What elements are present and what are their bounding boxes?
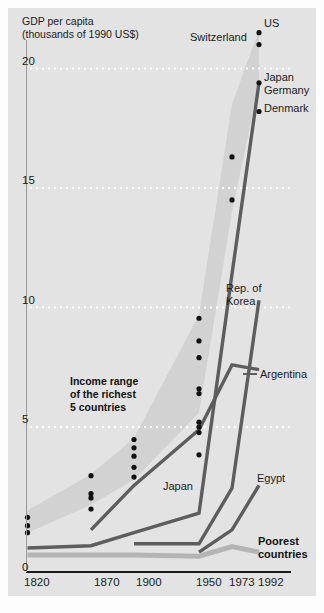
income-range-band <box>28 30 260 532</box>
income-range-line-1: Income range <box>70 375 138 387</box>
scatter-dot <box>25 530 30 535</box>
scatter-dot <box>196 420 201 425</box>
scatter-dot <box>196 316 201 321</box>
chart-svg: GDP per capita(thousands of 1990 US$)051… <box>0 0 324 613</box>
scatter-dot <box>131 437 136 442</box>
germany-label: Germany <box>264 84 310 96</box>
japan-label: Japan <box>163 480 193 492</box>
x-tick-1973: 1973 <box>229 576 255 588</box>
scatter-dot <box>88 495 93 500</box>
income-range-line-3: 5 countries <box>70 401 126 413</box>
scatter-dot <box>196 338 201 343</box>
x-tick-1870: 1870 <box>94 576 120 588</box>
chart-figure: GDP per capita(thousands of 1990 US$)051… <box>0 0 324 613</box>
scatter-dot <box>229 197 234 202</box>
income-range-line-2: of the richest <box>70 388 136 400</box>
scatter-dot <box>256 80 261 85</box>
scatter-dot <box>196 452 201 457</box>
us-label: US <box>264 17 279 29</box>
scatter-dot <box>25 523 30 528</box>
argentina-label: Argentina <box>260 368 308 380</box>
scatter-dot <box>131 454 136 459</box>
x-tick-1950: 1950 <box>196 576 222 588</box>
x-tick-1900: 1900 <box>136 576 162 588</box>
y-tick-0: 0 <box>22 561 28 573</box>
y-tick-10: 10 <box>22 294 35 306</box>
axis-title-line-1: GDP per capita <box>22 15 94 27</box>
poorest-countries-label-line-2: countries <box>258 548 308 560</box>
scatter-dot <box>229 154 234 159</box>
scatter-dot <box>25 515 30 520</box>
scatter-dot <box>131 445 136 450</box>
y-tick-20: 20 <box>22 55 35 67</box>
scatter-dot <box>256 42 261 47</box>
scatter-dot <box>88 506 93 511</box>
y-tick-5: 5 <box>22 413 28 425</box>
scatter-dot <box>196 391 201 396</box>
scatter-dot <box>256 30 261 35</box>
richest-5-band <box>28 30 260 532</box>
scatter-dot <box>88 473 93 478</box>
korea-label-line-1: Rep. of <box>226 282 262 294</box>
x-tick-1992: 1992 <box>258 576 284 588</box>
scatter-dot <box>196 424 201 429</box>
x-tick-1820: 1820 <box>24 576 50 588</box>
scatter-dot <box>196 355 201 360</box>
poorest-countries-label-line-1: Poorest <box>258 535 299 547</box>
scatter-dot <box>131 474 136 479</box>
scatter-dot <box>256 109 261 114</box>
denmark-label: Denmark <box>264 102 309 114</box>
y-tick-15: 15 <box>22 174 35 186</box>
switzerland-label: Switzerland <box>190 31 247 43</box>
egypt-label: Egypt <box>257 472 285 484</box>
scatter-dot <box>131 465 136 470</box>
japan-top-label: Japan <box>264 71 294 83</box>
scatter-dot <box>196 430 201 435</box>
scatter-dot <box>196 386 201 391</box>
axis-title-line-2: (thousands of 1990 US$) <box>22 28 139 40</box>
korea-label-line-2: Korea <box>226 295 256 307</box>
